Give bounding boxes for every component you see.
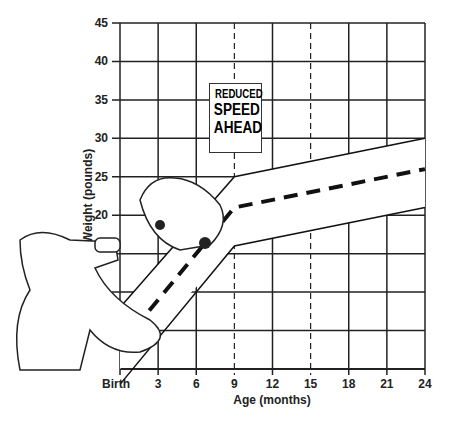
sign-line-3: AHEAD — [214, 120, 257, 136]
svg-text:6: 6 — [193, 377, 200, 391]
svg-text:9: 9 — [231, 377, 238, 391]
reduced-speed-sign: REDUCED SPEED AHEAD — [209, 83, 262, 153]
svg-text:Birth: Birth — [102, 377, 130, 391]
svg-text:15: 15 — [304, 377, 318, 391]
svg-text:20: 20 — [95, 208, 109, 222]
svg-text:45: 45 — [95, 16, 109, 30]
sign-line-1: REDUCED — [215, 88, 256, 100]
svg-text:40: 40 — [95, 54, 109, 68]
svg-text:3: 3 — [155, 377, 162, 391]
svg-text:24: 24 — [418, 377, 432, 391]
chart-svg: 51015202530354045Birth3691215182124Age (… — [0, 0, 450, 426]
svg-text:Age (months): Age (months) — [233, 393, 310, 407]
svg-text:Weight (pounds): Weight (pounds) — [81, 149, 95, 243]
svg-text:35: 35 — [95, 93, 109, 107]
svg-text:21: 21 — [380, 377, 394, 391]
svg-text:18: 18 — [342, 377, 356, 391]
sign-line-2: SPEED — [214, 102, 257, 118]
svg-text:12: 12 — [266, 377, 280, 391]
svg-text:25: 25 — [95, 170, 109, 184]
svg-text:30: 30 — [95, 131, 109, 145]
growth-chart: 51015202530354045Birth3691215182124Age (… — [0, 0, 450, 426]
